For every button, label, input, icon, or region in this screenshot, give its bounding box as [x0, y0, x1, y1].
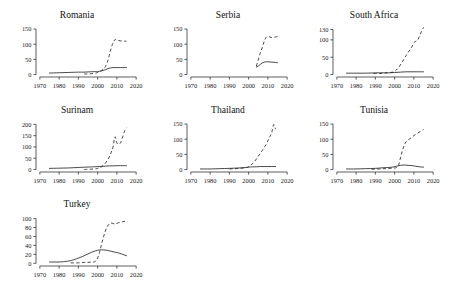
- x-tick-label: 1990: [72, 177, 85, 184]
- x-tick-label: 1980: [53, 271, 66, 278]
- x-tick-label: 1990: [72, 271, 85, 278]
- y-tick-label: 50: [322, 151, 328, 158]
- y-tick-label: 0: [28, 166, 31, 173]
- y-tick-label: 100: [173, 41, 183, 48]
- x-tick-label: 1990: [223, 177, 236, 184]
- x-tick-label: 2000: [91, 271, 104, 278]
- x-tick-label: 2010: [110, 177, 123, 184]
- series-line-solid: [49, 166, 126, 169]
- y-tick-label: 0: [179, 71, 182, 78]
- x-tick-label: 1970: [33, 271, 46, 278]
- y-tick-label: 0: [28, 71, 31, 78]
- y-tick-label: 20: [25, 251, 31, 258]
- panel-tunisia: Tunisia050100150197019801990200020102020: [303, 105, 445, 193]
- x-tick-label: 1970: [330, 177, 343, 184]
- x-tick-label: 2020: [130, 271, 143, 278]
- y-tick-label: 100: [22, 41, 32, 48]
- x-tick-label: 1980: [53, 82, 66, 89]
- panel-romania: Romania050100150197019801990200020102020: [6, 10, 148, 98]
- x-tick-label: 1990: [369, 82, 382, 89]
- x-tick-label: 2010: [407, 177, 420, 184]
- series-line-dashed: [71, 221, 127, 263]
- panel-title: Romania: [6, 10, 148, 21]
- panel-surinam: Surinam050100150200197019801990200020102…: [6, 105, 148, 193]
- y-tick-label: 150: [173, 120, 183, 127]
- y-tick-label: 100: [319, 36, 329, 43]
- x-tick-label: 2020: [130, 177, 143, 184]
- x-tick-label: 1990: [223, 82, 236, 89]
- y-tick-label: 100: [22, 215, 32, 222]
- plot-area: 050100150197019801990200020102020: [6, 10, 148, 98]
- y-tick-label: 0: [179, 166, 182, 173]
- x-tick-label: 2000: [242, 82, 255, 89]
- x-tick-label: 1980: [204, 177, 217, 184]
- x-tick-label: 1990: [72, 82, 85, 89]
- y-tick-label: 100: [319, 136, 329, 143]
- x-tick-label: 1990: [369, 177, 382, 184]
- x-tick-label: 1970: [330, 82, 343, 89]
- y-tick-label: 50: [25, 56, 31, 63]
- y-tick-label: 50: [176, 151, 182, 158]
- series-line-dashed: [229, 125, 275, 169]
- x-tick-label: 2020: [427, 82, 440, 89]
- y-tick-label: 100: [173, 136, 183, 143]
- plot-area: 050100130197019801990200020102020: [303, 10, 445, 98]
- panel-title: Serbia: [157, 10, 299, 21]
- panel-title: Tunisia: [303, 105, 445, 116]
- x-tick-label: 2010: [261, 82, 274, 89]
- y-tick-label: 150: [173, 25, 183, 32]
- x-tick-label: 2010: [407, 82, 420, 89]
- panel-title: South Africa: [303, 10, 445, 21]
- x-tick-label: 1980: [53, 177, 66, 184]
- y-tick-label: 80: [25, 224, 31, 231]
- series-line-dashed: [373, 27, 423, 73]
- small-multiples-figure: Romania050100150197019801990200020102020…: [0, 0, 450, 288]
- x-tick-label: 2000: [388, 82, 401, 89]
- panel-south-africa: South Africa0501001301970198019902000201…: [303, 10, 445, 98]
- x-tick-label: 2000: [242, 177, 255, 184]
- plot-area: 020406080100197019801990200020102020: [6, 199, 148, 287]
- x-tick-label: 2020: [427, 177, 440, 184]
- series-line-dashed: [84, 40, 126, 74]
- y-tick-label: 50: [322, 54, 328, 61]
- plot-area: 050100150197019801990200020102020: [157, 105, 299, 193]
- panel-serbia: Serbia050100150197019801990200020102020: [157, 10, 299, 98]
- y-tick-label: 150: [22, 132, 32, 139]
- x-tick-label: 2020: [281, 177, 294, 184]
- x-tick-label: 1980: [350, 177, 363, 184]
- y-tick-label: 200: [22, 121, 32, 128]
- y-tick-label: 0: [325, 71, 328, 78]
- panel-title: Surinam: [6, 105, 148, 116]
- panel-turkey: Turkey0204060801001970198019902000201020…: [6, 199, 148, 287]
- panel-thailand: Thailand05010015019701980199020002010202…: [157, 105, 299, 193]
- series-line-solid: [49, 250, 126, 262]
- x-tick-label: 2010: [110, 271, 123, 278]
- plot-area: 050100150197019801990200020102020: [303, 105, 445, 193]
- y-tick-label: 150: [319, 120, 329, 127]
- x-tick-label: 1970: [33, 82, 46, 89]
- series-line-solid: [256, 62, 277, 67]
- x-tick-label: 1970: [184, 177, 197, 184]
- series-line-dashed: [372, 130, 424, 170]
- y-tick-label: 100: [22, 143, 32, 150]
- y-tick-label: 40: [25, 242, 31, 249]
- x-tick-label: 2010: [110, 82, 123, 89]
- x-tick-label: 2000: [91, 82, 104, 89]
- y-tick-label: 130: [319, 26, 329, 33]
- x-tick-label: 1980: [350, 82, 363, 89]
- plot-area: 050100150197019801990200020102020: [157, 10, 299, 98]
- y-tick-label: 50: [25, 155, 31, 162]
- y-tick-label: 0: [325, 166, 328, 173]
- series-line-dashed: [84, 128, 126, 170]
- y-tick-label: 60: [25, 233, 31, 240]
- panel-title: Turkey: [6, 199, 148, 210]
- x-tick-label: 1970: [184, 82, 197, 89]
- x-tick-label: 2010: [261, 177, 274, 184]
- y-tick-label: 0: [28, 260, 31, 267]
- series-line-solid: [49, 68, 126, 73]
- x-tick-label: 1980: [204, 82, 217, 89]
- plot-area: 050100150200197019801990200020102020: [6, 105, 148, 193]
- x-tick-label: 2000: [91, 177, 104, 184]
- panel-title: Thailand: [157, 105, 299, 116]
- x-tick-label: 2020: [281, 82, 294, 89]
